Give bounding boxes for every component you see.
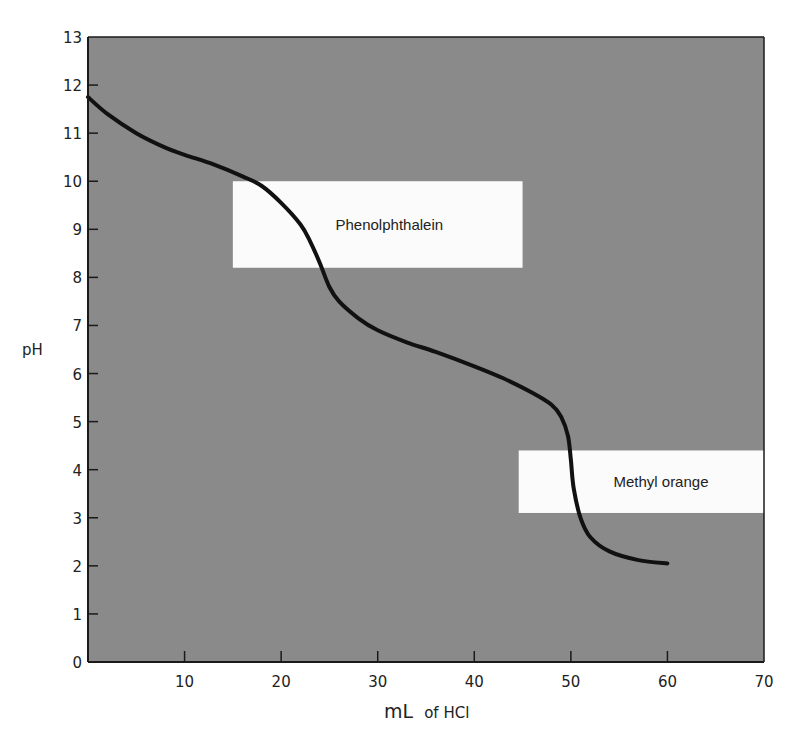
indicator-band-methyl-orange: Methyl orange bbox=[519, 450, 764, 513]
y-tick-label: 13 bbox=[63, 29, 82, 47]
titration-chart: PhenolphthaleinMethyl orange 01234567891… bbox=[0, 0, 801, 747]
y-tick-label: 10 bbox=[63, 173, 82, 191]
x-axis-label-main: mL bbox=[384, 700, 414, 722]
indicator-band-phenolphthalein: Phenolphthalein bbox=[233, 181, 523, 268]
x-tick-label: 60 bbox=[658, 673, 677, 691]
y-tick-label: 5 bbox=[72, 414, 82, 432]
y-tick-label: 1 bbox=[72, 606, 82, 624]
x-tick-label: 40 bbox=[465, 673, 484, 691]
y-tick-label: 11 bbox=[63, 125, 82, 143]
x-tick-label: 10 bbox=[175, 673, 194, 691]
y-tick-label: 4 bbox=[72, 462, 82, 480]
x-axis-label-sub: of HCl bbox=[424, 704, 469, 722]
x-tick-label: 50 bbox=[561, 673, 580, 691]
indicator-band-label: Methyl orange bbox=[613, 473, 708, 490]
y-tick-label: 12 bbox=[63, 77, 82, 95]
y-tick-label: 3 bbox=[72, 510, 82, 528]
y-tick-label: 7 bbox=[72, 317, 82, 335]
y-tick-label: 0 bbox=[72, 654, 82, 672]
x-tick-label: 20 bbox=[272, 673, 291, 691]
y-axis-label: pH bbox=[22, 341, 43, 359]
x-tick-label: 70 bbox=[754, 673, 773, 691]
y-tick-label: 8 bbox=[72, 269, 82, 287]
y-tick-label: 2 bbox=[72, 558, 82, 576]
x-axis-label: mL of HCl bbox=[384, 700, 469, 722]
y-tick-label: 6 bbox=[72, 366, 82, 384]
indicator-band-label: Phenolphthalein bbox=[336, 216, 444, 233]
y-tick-label: 9 bbox=[72, 221, 82, 239]
x-tick-label: 30 bbox=[368, 673, 387, 691]
